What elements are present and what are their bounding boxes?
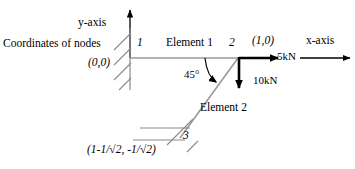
node-3-label: 3	[183, 130, 189, 142]
figure-canvas: Coordinates of nodes y-axis x-axis 1 2 3…	[0, 0, 355, 169]
node-1-coordinate-label: (0,0)	[88, 57, 110, 69]
y-axis-label: y-axis	[78, 17, 106, 29]
force-10kn-label: 10kN	[253, 75, 277, 86]
node-2-coordinate-label: (1,0)	[252, 35, 274, 47]
force-5kn-label: 5kN	[277, 51, 296, 62]
node-2-label: 2	[229, 37, 235, 49]
angle-45-label: 45°	[184, 69, 199, 80]
x-axis-label: x-axis	[306, 35, 334, 47]
support-hatching-node-1	[114, 33, 131, 90]
node-1-label: 1	[137, 37, 143, 49]
coordinates-of-nodes-label: Coordinates of nodes	[3, 38, 101, 50]
element-1-label: Element 1	[166, 37, 213, 49]
frame-diagram	[0, 0, 355, 169]
node-3-coordinate-label: (1-1/√2, -1/√2)	[87, 144, 156, 156]
angle-arc-45	[205, 58, 216, 82]
element-2-label: Element 2	[200, 102, 247, 114]
